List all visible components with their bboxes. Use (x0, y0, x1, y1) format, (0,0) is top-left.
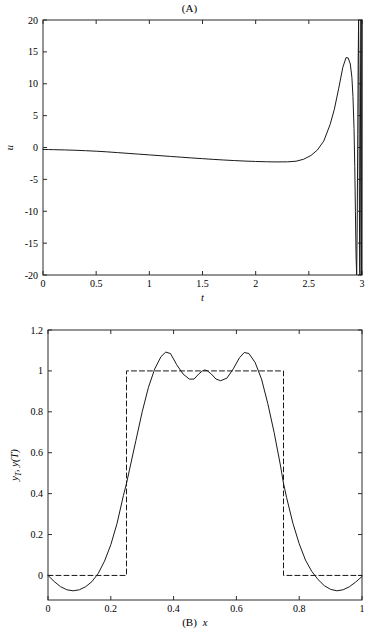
y-tick-label: -5 (30, 174, 38, 185)
y-axis-label: u (4, 145, 15, 150)
y-axis-label-text: yT, y(T) (9, 449, 23, 482)
panel-b-plot: 00.20.40.60.8100.20.40.60.811.2xyT, y(T) (0, 320, 379, 639)
y-axis-label-text: u (4, 145, 15, 150)
x-tick-label: 1.5 (196, 278, 209, 289)
y-tick-label: 0.6 (31, 447, 44, 458)
y-tick-label: 10 (28, 78, 38, 89)
x-tick-label: 0.4 (167, 603, 180, 614)
x-tick-label: 2 (253, 278, 258, 289)
x-tick-label: 0.8 (293, 603, 306, 614)
y-tick-label: 0.8 (31, 406, 44, 417)
series-path (43, 20, 362, 275)
x-tick-label: 2.5 (303, 278, 316, 289)
x-tick-label: 1 (147, 278, 152, 289)
x-tick-label: 3 (360, 278, 365, 289)
y-tick-label: -15 (25, 238, 38, 249)
y-tick-label: 5 (33, 110, 38, 121)
panel-b: 00.20.40.60.8100.20.40.60.811.2xyT, y(T)… (0, 320, 379, 639)
panel-b-caption: (B) (0, 616, 379, 628)
y-tick-label: 1 (38, 365, 43, 376)
y-tick-label: -20 (25, 270, 38, 281)
series-path (48, 371, 362, 576)
y-tick-label: 20 (28, 15, 38, 26)
y-axis-label: yT, y(T) (9, 449, 23, 482)
y-tick-label: -10 (25, 206, 38, 217)
y-tick-label: 0 (38, 570, 43, 581)
y-tick-label: 15 (28, 46, 38, 57)
figure-container: (A) 00.511.522.53-20-15-10-505101520tu 0… (0, 0, 379, 639)
axes-frame (43, 20, 362, 275)
panel-a-plot: 00.511.522.53-20-15-10-505101520tu (0, 0, 379, 320)
panel-a: (A) 00.511.522.53-20-15-10-505101520tu (0, 0, 379, 320)
x-tick-label: 1 (360, 603, 365, 614)
y-tick-label: 0.2 (31, 529, 44, 540)
y-tick-label: 0 (33, 142, 38, 153)
x-axis-label: t (201, 292, 205, 303)
x-tick-label: 0.5 (90, 278, 103, 289)
x-tick-label: 0 (41, 278, 46, 289)
y-tick-label: 1.2 (31, 325, 44, 336)
x-tick-label: 0 (46, 603, 51, 614)
x-tick-label: 0.2 (105, 603, 118, 614)
y-tick-label: 0.4 (31, 488, 44, 499)
series-path (48, 352, 362, 591)
x-tick-label: 0.6 (230, 603, 243, 614)
